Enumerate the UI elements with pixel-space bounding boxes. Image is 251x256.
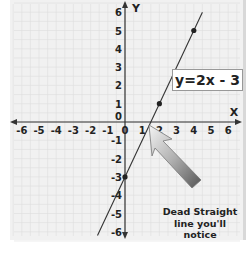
svg-text:0: 0	[122, 125, 129, 136]
note-line-2: line you'll	[150, 218, 250, 230]
svg-text:-5: -5	[33, 125, 44, 136]
svg-text:1: 1	[115, 99, 122, 110]
svg-text:0: 0	[115, 111, 122, 122]
svg-text:5: 5	[115, 26, 122, 37]
tick-labels: -6-5-4-3-2-101234566543210-1-2-3-4-5-6XY	[16, 2, 239, 238]
svg-text:-6: -6	[111, 227, 122, 238]
data-series	[97, 12, 202, 235]
svg-text:-3: -3	[68, 125, 79, 136]
svg-text:-6: -6	[16, 125, 27, 136]
svg-text:X: X	[230, 106, 239, 119]
svg-text:2: 2	[115, 80, 122, 91]
svg-text:6: 6	[115, 7, 122, 18]
svg-text:5: 5	[208, 125, 215, 136]
axes	[10, 1, 242, 239]
svg-text:4: 4	[190, 125, 197, 136]
note-line-1: Dead Straight	[150, 206, 250, 218]
svg-text:3: 3	[115, 62, 122, 73]
svg-text:-2: -2	[85, 125, 96, 136]
svg-text:-3: -3	[111, 172, 122, 183]
svg-text:3: 3	[173, 125, 180, 136]
equation-label: y=2x - 3	[172, 69, 243, 91]
svg-text:-5: -5	[111, 209, 122, 220]
note-line-3: notice	[150, 229, 250, 241]
svg-text:6: 6	[225, 125, 232, 136]
svg-text:4: 4	[115, 44, 122, 55]
svg-text:-4: -4	[51, 125, 62, 136]
svg-text:-1: -1	[111, 135, 122, 146]
callout-note: Dead Straight line you'll notice	[150, 206, 250, 241]
svg-text:-2: -2	[111, 154, 122, 165]
svg-text:Y: Y	[131, 2, 141, 15]
